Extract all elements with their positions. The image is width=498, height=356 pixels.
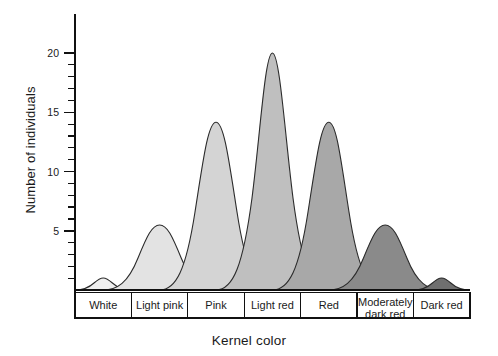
category-label-moderately-dark-red-line1: Moderately xyxy=(358,296,413,308)
category-label-light-red: Light red xyxy=(251,299,294,311)
y-axis-major-ticks xyxy=(64,53,75,231)
category-label-white: White xyxy=(89,299,117,311)
y-tick-label-10: 10 xyxy=(47,166,59,178)
chart-figure: Number of individuals xyxy=(0,0,498,356)
category-label-red: Red xyxy=(319,299,339,311)
curve-layer xyxy=(75,53,470,290)
distribution-plot: 20 15 10 5 White Light pink Pink Light r… xyxy=(0,0,498,356)
y-tick-label-20: 20 xyxy=(47,47,59,59)
x-axis-title: Kernel color xyxy=(0,333,498,348)
category-label-dark-red: Dark red xyxy=(421,299,463,311)
category-label-light-pink: Light pink xyxy=(136,299,184,311)
y-tick-label-15: 15 xyxy=(47,106,59,118)
category-label-pink: Pink xyxy=(205,299,227,311)
y-tick-label-5: 5 xyxy=(53,225,59,237)
category-label-moderately-dark-red-line2: dark red xyxy=(365,308,405,320)
